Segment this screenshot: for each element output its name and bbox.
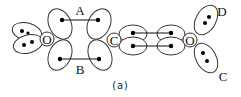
atom-left-oxygen: O: [42, 32, 51, 47]
label-B: B: [76, 62, 85, 77]
figure-caption: (a): [111, 80, 129, 91]
label-A: A: [75, 3, 85, 18]
bonding-diagram: O C O A B D C (a): [0, 0, 241, 97]
label-C: C: [219, 69, 228, 84]
atom-right-oxygen: O: [185, 33, 194, 48]
carbon-right-lobes: [119, 25, 147, 55]
atom-carbon: C: [110, 33, 119, 48]
right-oxygen-left-lobes: [157, 25, 185, 55]
label-D: D: [217, 4, 226, 19]
